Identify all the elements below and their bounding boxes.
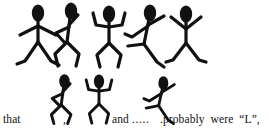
stick-figure-arms-v-up-icon — [161, 5, 213, 71]
stick-figure-top-5 — [161, 5, 213, 71]
scanned-page: that , and ..... .probably were “L”, — [0, 0, 269, 130]
caption-tail-text: .probably were “L”, — [160, 112, 260, 126]
caption-ellipsis: ..... — [132, 112, 149, 126]
caption-line: that , and ..... .probably were “L”, — [0, 108, 269, 130]
caption-lead-word: that — [3, 112, 21, 126]
caption-comma-after-first-figure: , — [63, 112, 66, 126]
caption-conjunction: and — [112, 112, 129, 126]
